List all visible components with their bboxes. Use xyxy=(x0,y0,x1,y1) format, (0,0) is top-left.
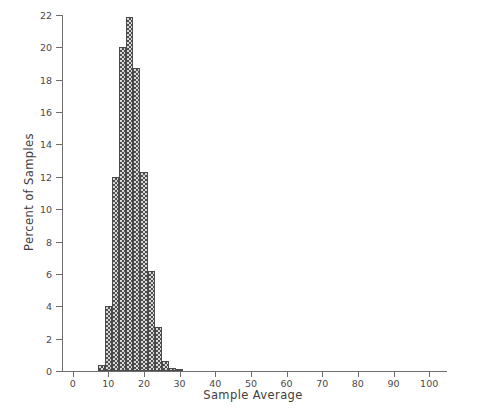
histogram-bar xyxy=(176,369,183,371)
histogram-bar xyxy=(140,172,147,371)
histogram-bar xyxy=(148,271,155,371)
histogram-bar xyxy=(133,68,140,371)
histogram-figure: Percent of Samples Sample Average 024681… xyxy=(0,0,486,413)
histogram-bar xyxy=(112,177,119,371)
histogram-bar xyxy=(155,327,162,371)
histogram-bar xyxy=(169,368,176,371)
histogram-bar xyxy=(105,306,112,371)
histogram-bar xyxy=(119,47,126,371)
histogram-bar xyxy=(98,365,105,371)
histogram-bar xyxy=(126,17,133,371)
plot-area xyxy=(0,0,486,413)
histogram-bar xyxy=(162,361,169,371)
